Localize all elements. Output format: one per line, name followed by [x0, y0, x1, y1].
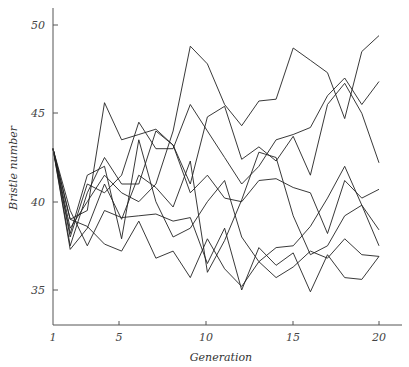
series-lines	[53, 36, 379, 292]
x-axis-title: Generation	[190, 351, 252, 364]
series-line-1	[53, 36, 379, 229]
x-axis-ticks: 1 5 10 15 20	[50, 321, 387, 344]
series-line-4	[53, 131, 379, 246]
series-line-5	[53, 140, 379, 262]
x-tick-label-5: 5	[116, 331, 123, 344]
series-line-3	[53, 83, 379, 219]
y-axis-title: Bristle number	[7, 125, 20, 211]
y-axis-ticks: 35 40 45 50	[30, 19, 58, 297]
series-line-7	[53, 149, 379, 292]
y-tick-label-40: 40	[30, 196, 45, 209]
y-tick-label-45: 45	[30, 107, 45, 120]
y-tick-label-35: 35	[31, 284, 45, 297]
series-line-8	[53, 149, 379, 287]
x-tick-label-15: 15	[286, 331, 300, 344]
x-tick-label-20: 20	[371, 331, 386, 344]
x-tick-label-10: 10	[199, 331, 213, 344]
y-tick-label-50: 50	[31, 19, 45, 32]
x-tick-label-1: 1	[50, 331, 57, 344]
line-chart: 35 40 45 50 1 5 10 15 20 Generation Bris…	[0, 0, 409, 367]
